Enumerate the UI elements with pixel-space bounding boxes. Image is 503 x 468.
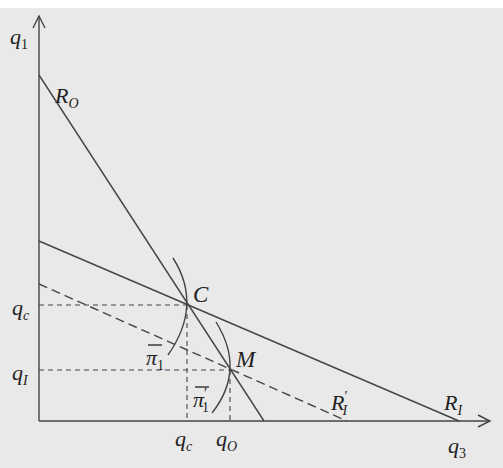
point-label-M: M [235, 347, 257, 372]
label-R-O: RO [54, 83, 79, 111]
svg-text:π1: π1 [146, 345, 164, 373]
reaction-function-diagram: q1 q3 RO RI R′I C M π1 π′1 [0, 0, 503, 468]
x-axis-label: q3 [448, 433, 466, 461]
isoprofit-arc-pi1-prime [212, 322, 230, 413]
isoprofit-arc-pi1 [168, 258, 187, 355]
diagram-stage: q1 q3 RO RI R′I C M π1 π′1 [0, 0, 503, 468]
label-R-I: RI [443, 390, 463, 418]
y-axis-label: q1 [10, 24, 28, 52]
label-R-I-prime: R′I [330, 389, 349, 418]
point-label-C: C [193, 282, 209, 307]
label-pi1: π1 [146, 345, 164, 373]
x-tick-qc: qc [175, 426, 193, 454]
line-R-I [39, 241, 459, 421]
x-tick-qO: qO [216, 426, 237, 454]
svg-text:π′1: π′1 [193, 386, 209, 415]
label-pi1-prime: π′1 [193, 386, 209, 415]
y-tick-qc: qc [12, 295, 30, 323]
y-tick-qI: qI [12, 360, 29, 388]
